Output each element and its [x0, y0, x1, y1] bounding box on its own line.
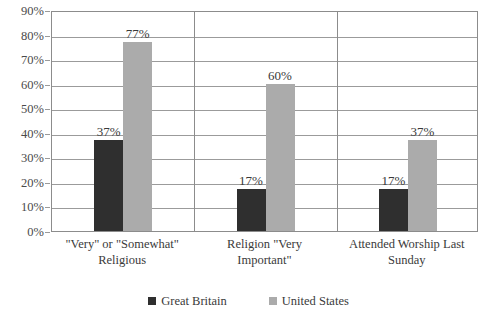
- y-axis-tick-mark: [45, 36, 50, 37]
- x-axis-category-line: Religious: [51, 252, 193, 268]
- y-axis-tick-mark: [45, 183, 50, 184]
- gridline: [52, 61, 477, 62]
- legend-item[interactable]: United States: [269, 294, 349, 308]
- legend-label: Great Britain: [161, 294, 227, 308]
- legend-swatch-icon: [148, 297, 156, 305]
- y-axis-tick-label: 40%: [0, 128, 44, 140]
- bar-united-states-0: [123, 42, 152, 231]
- legend-label: United States: [282, 294, 349, 308]
- y-axis-tick-mark: [45, 232, 50, 233]
- y-axis-tick-mark: [45, 134, 50, 135]
- y-axis-tick-label: 10%: [0, 201, 44, 213]
- x-axis-category-label: Attended Worship LastSunday: [336, 236, 478, 268]
- y-axis-tick-mark: [45, 207, 50, 208]
- chart-title: [0, 0, 497, 2]
- y-axis-tick-mark: [45, 85, 50, 86]
- y-axis-tick-label: 70%: [0, 54, 44, 66]
- bar-great-britain-2: [379, 189, 408, 231]
- y-axis-tick-label: 30%: [0, 152, 44, 164]
- bar-great-britain-1: [237, 189, 266, 231]
- y-axis-tick-mark: [45, 158, 50, 159]
- y-axis-tick-mark: [45, 109, 50, 110]
- bar-value-label: 77%: [112, 27, 163, 40]
- y-axis-tick-mark: [45, 11, 50, 12]
- x-axis-category-line: Sunday: [336, 252, 478, 268]
- x-axis-category-label: Religion "VeryImportant": [193, 236, 335, 268]
- gridline: [52, 110, 477, 111]
- gridline: [52, 86, 477, 87]
- bar-value-label: 60%: [255, 69, 306, 82]
- y-axis-tick-label: 20%: [0, 177, 44, 189]
- x-axis-category-line: Religion "Very: [193, 236, 335, 252]
- y-axis-tick-label: 80%: [0, 30, 44, 42]
- chart-legend: Great BritainUnited States: [0, 291, 497, 311]
- y-axis-tick-label: 0%: [0, 226, 44, 238]
- bar-chart: 90%80%70%60%50%40%30%20%10%0% 37%77%17%6…: [0, 0, 497, 315]
- bar-united-states-2: [408, 140, 437, 231]
- x-axis-category-label: "Very" or "Somewhat"Religious: [51, 236, 193, 268]
- plot-area: 37%77%17%60%17%37%: [51, 11, 478, 232]
- y-axis-tick-label: 90%: [0, 5, 44, 17]
- bar-great-britain-0: [94, 140, 123, 231]
- y-axis-tick-mark: [45, 60, 50, 61]
- category-divider: [194, 12, 195, 231]
- x-axis-category-line: Attended Worship Last: [336, 236, 478, 252]
- y-axis-tick-label: 50%: [0, 103, 44, 115]
- category-divider: [337, 12, 338, 231]
- x-axis-category-line: "Very" or "Somewhat": [51, 236, 193, 252]
- bar-united-states-1: [266, 84, 295, 231]
- x-axis: "Very" or "Somewhat"ReligiousReligion "V…: [51, 236, 478, 282]
- y-axis-tick-label: 60%: [0, 79, 44, 91]
- bar-value-label: 37%: [397, 125, 448, 138]
- y-axis: 90%80%70%60%50%40%30%20%10%0%: [0, 11, 44, 232]
- legend-item[interactable]: Great Britain: [148, 294, 227, 308]
- x-axis-category-line: Important": [193, 252, 335, 268]
- legend-swatch-icon: [269, 297, 277, 305]
